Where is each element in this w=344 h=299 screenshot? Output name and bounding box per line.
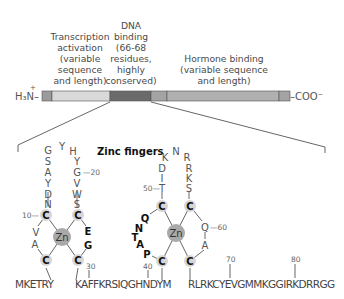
bar-segment-transcription-activation (52, 91, 110, 101)
svg-text:80: 80 (291, 255, 301, 264)
svg-text:C: C (74, 210, 81, 221)
svg-text:E: E (85, 226, 92, 237)
svg-text:P: P (143, 249, 150, 260)
svg-text:and length): and length) (53, 75, 106, 86)
svg-text:Zn: Zn (55, 232, 68, 243)
svg-text:residues,: residues, (110, 53, 152, 64)
svg-text:40: 40 (143, 262, 153, 271)
svg-text:(variable: (variable (60, 53, 101, 64)
svg-text:and length): and length) (197, 75, 250, 86)
svg-text:Q: Q (201, 222, 209, 233)
svg-text:—20: —20 (83, 168, 100, 177)
n-terminus-label: H₃N– (15, 91, 39, 102)
svg-text:S: S (74, 199, 80, 210)
bar-segment-hormone-binding (167, 91, 279, 101)
svg-text:C: C (158, 201, 165, 212)
svg-text:30: 30 (86, 262, 96, 271)
svg-text:activation: activation (57, 42, 103, 53)
zinc-finger-2: K N R D I T R K S 50— Q N T A P Q A —60 … (132, 146, 295, 281)
svg-text:A: A (32, 239, 39, 250)
zinc-finger-1: G Y H S A Y D N Y G V W S —20 V A E G C … (22, 141, 100, 281)
protein-bar (42, 91, 290, 101)
svg-text:G: G (84, 240, 92, 251)
svg-text:50—: 50— (143, 184, 161, 193)
bar-segment-c-cap (279, 91, 290, 101)
svg-text:Y: Y (73, 156, 81, 167)
svg-text:S: S (186, 183, 192, 194)
svg-text:Zn: Zn (169, 228, 182, 239)
svg-text:C: C (186, 201, 193, 212)
svg-text:10—: 10— (22, 211, 40, 220)
svg-text:DNA: DNA (121, 20, 142, 31)
svg-text:Transcription: Transcription (49, 31, 109, 42)
svg-text:V: V (74, 178, 81, 189)
svg-text:70: 70 (226, 255, 236, 264)
svg-text:G: G (44, 145, 52, 156)
svg-text:Hormone binding: Hormone binding (184, 53, 263, 64)
svg-text:S: S (45, 156, 51, 167)
svg-text:conserved): conserved) (105, 75, 156, 86)
svg-text:V: V (33, 227, 40, 238)
nuclear-receptor-domain-diagram: Transcription activation (variable seque… (0, 0, 344, 299)
bar-segment-n-cap (42, 91, 52, 101)
svg-text:A: A (45, 167, 52, 178)
svg-text:C: C (42, 255, 49, 266)
svg-text:highly: highly (117, 64, 146, 75)
svg-text:MKETRY: MKETRY (15, 278, 55, 290)
svg-text:(variable sequence: (variable sequence (180, 64, 268, 75)
svg-text:C: C (42, 210, 49, 221)
c-terminus-label: –COO⁻ (290, 91, 323, 102)
svg-text:(66-68: (66-68 (116, 42, 146, 53)
svg-text:K: K (162, 152, 169, 163)
transcription-activation-label: Transcription activation (variable seque… (49, 31, 109, 86)
svg-text:N: N (172, 146, 179, 157)
svg-text:KAFFKRSIQGHNDYM: KAFFKRSIQGHNDYM (75, 278, 172, 290)
svg-text:C: C (158, 256, 165, 267)
hormone-binding-label: Hormone binding (variable sequence and l… (180, 53, 268, 86)
svg-text:RLRKCYEVGMMKGGIRKDRRGG: RLRKCYEVGMMKGGIRKDRRGG (188, 278, 335, 290)
svg-text:A: A (202, 240, 209, 251)
svg-text:C: C (186, 256, 193, 267)
sequence-line: MKETRY KAFFKRSIQGHNDYM RLRKCYEVGMMKGGIRK… (15, 255, 335, 291)
bar-segment-hinge (151, 91, 167, 101)
svg-text:C: C (74, 255, 81, 266)
zinc-fingers-title: Zinc fingers (97, 146, 164, 157)
bar-segment-dna-binding (110, 91, 151, 101)
svg-text:G: G (73, 167, 81, 178)
n-terminus-charge: + (30, 84, 36, 92)
dna-binding-label: DNA binding (66-68 residues, highly cons… (105, 20, 156, 86)
svg-text:binding: binding (114, 31, 148, 42)
svg-text:sequence: sequence (58, 64, 103, 75)
svg-text:Y: Y (44, 178, 52, 189)
svg-text:Y: Y (58, 141, 66, 152)
svg-text:N: N (44, 199, 51, 210)
svg-text:R: R (184, 152, 191, 163)
svg-text:—60: —60 (210, 223, 227, 232)
